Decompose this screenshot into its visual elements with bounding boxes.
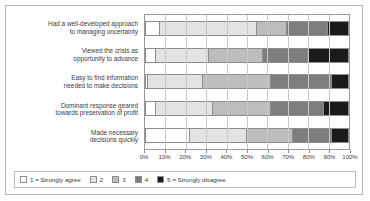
category-label: Made necessary decisions quickly — [10, 123, 141, 150]
bar-segment[interactable] — [146, 129, 190, 142]
legend-swatch — [112, 176, 119, 183]
category-label: Had a well-developed approach to managin… — [10, 14, 141, 41]
category-label-line: Had a well-developed approach — [48, 20, 138, 28]
stacked-bar[interactable] — [145, 48, 349, 63]
x-tick-label: 10% — [159, 154, 171, 160]
category-label-line: decisions quickly — [90, 136, 138, 144]
x-axis: 0%10%20%30%40%50%60%70%80%90%100% — [144, 150, 350, 166]
stacked-bar[interactable] — [145, 128, 349, 143]
bar-segment[interactable] — [328, 22, 348, 35]
bar-row — [145, 15, 349, 42]
x-tick — [144, 150, 145, 153]
bar-segment[interactable] — [209, 49, 264, 62]
chart-legend: 1 = Strongly agree2345 = Strongly disagr… — [14, 171, 356, 188]
bar-segment[interactable] — [271, 75, 332, 88]
bar-segment[interactable] — [146, 49, 156, 62]
x-tick-label: 80% — [303, 154, 315, 160]
bar-segment[interactable] — [332, 75, 348, 88]
x-tick — [309, 150, 310, 153]
category-label: Easy to find information needed to make … — [10, 68, 141, 95]
x-tick-label: 90% — [323, 154, 335, 160]
x-tick-label: 100% — [342, 154, 357, 160]
chart-plot-wrapper: Had a well-developed approach to managin… — [6, 6, 362, 166]
x-tick — [185, 150, 186, 153]
bar-segment[interactable] — [324, 102, 348, 115]
x-tick-label: 60% — [262, 154, 274, 160]
stacked-bar[interactable] — [145, 101, 349, 116]
legend-swatch — [90, 176, 97, 183]
stacked-bar[interactable] — [145, 74, 349, 89]
legend-item[interactable]: 2 — [90, 176, 103, 183]
bar-segment[interactable] — [257, 22, 287, 35]
bar-segment[interactable] — [271, 102, 324, 115]
x-tick-label: 40% — [220, 154, 232, 160]
x-tick — [268, 150, 269, 153]
bar-row — [145, 42, 349, 69]
bar-segment[interactable] — [213, 102, 272, 115]
category-axis-labels: Had a well-developed approach to managin… — [10, 14, 141, 150]
bar-row — [145, 95, 349, 122]
legend-swatch — [20, 176, 27, 183]
category-label-line: Dominant response geared — [61, 102, 138, 110]
x-tick-label: 50% — [241, 154, 253, 160]
bar-segment[interactable] — [156, 49, 209, 62]
bar-segment[interactable] — [263, 49, 307, 62]
legend-swatch — [135, 176, 142, 183]
legend-item[interactable]: 3 — [112, 176, 125, 183]
bar-segment[interactable] — [146, 22, 160, 35]
x-tick-label: 70% — [282, 154, 294, 160]
bar-segment[interactable] — [160, 22, 257, 35]
stacked-bars — [145, 15, 349, 149]
legend-label: 3 — [122, 176, 125, 183]
x-tick-label: 20% — [179, 154, 191, 160]
legend-item[interactable]: 4 — [135, 176, 148, 183]
bar-segment[interactable] — [190, 129, 247, 142]
x-tick — [350, 150, 351, 153]
category-label-line: Viewed the crisis as — [82, 47, 138, 55]
x-tick — [226, 150, 227, 153]
category-label-line: Easy to find information — [71, 74, 138, 82]
plot-area — [144, 14, 350, 150]
category-label-line: opportunity to advance — [73, 55, 138, 63]
bar-segment[interactable] — [287, 22, 327, 35]
category-label-line: towards preservation of profit — [56, 109, 138, 117]
bar-segment[interactable] — [146, 102, 156, 115]
bar-segment[interactable] — [148, 75, 203, 88]
stacked-bar[interactable] — [145, 21, 349, 36]
category-label: Dominant response geared towards preserv… — [10, 96, 141, 123]
x-tick — [329, 150, 330, 153]
legend-item[interactable]: 5 = Strongly disagree — [157, 176, 226, 183]
bar-segment[interactable] — [332, 129, 348, 142]
legend-label: 5 = Strongly disagree — [167, 176, 226, 183]
x-tick — [165, 150, 166, 153]
category-label: Viewed the crisis as opportunity to adva… — [10, 41, 141, 68]
legend-label: 2 — [100, 176, 103, 183]
x-tick-label: 0% — [140, 154, 149, 160]
category-label-line: to managing uncertainty — [70, 28, 138, 36]
bar-segment[interactable] — [156, 102, 213, 115]
bar-segment[interactable] — [203, 75, 272, 88]
legend-item[interactable]: 1 = Strongly agree — [20, 176, 81, 183]
bar-segment[interactable] — [308, 49, 348, 62]
category-label-line: Made necessary — [91, 129, 138, 137]
bar-segment[interactable] — [293, 129, 331, 142]
bar-row — [145, 69, 349, 96]
bar-row — [145, 122, 349, 149]
legend-swatch — [157, 176, 164, 183]
category-label-line: needed to make decisions — [64, 82, 138, 90]
x-tick — [247, 150, 248, 153]
x-tick — [288, 150, 289, 153]
bar-segment[interactable] — [247, 129, 293, 142]
legend-label: 1 = Strongly agree — [30, 176, 81, 183]
x-tick-label: 30% — [200, 154, 212, 160]
x-tick — [206, 150, 207, 153]
chart-card: Had a well-developed approach to managin… — [5, 5, 363, 195]
legend-label: 4 — [145, 176, 148, 183]
